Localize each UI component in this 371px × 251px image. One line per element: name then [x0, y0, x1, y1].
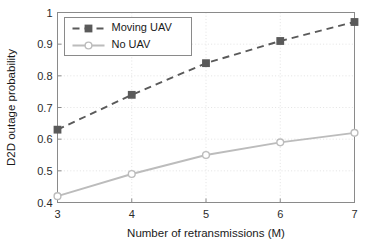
data-point-marker	[128, 171, 135, 178]
y-tick-label: 1	[46, 7, 52, 19]
y-axis-title: D2D outage probability	[5, 49, 17, 166]
data-point-marker	[351, 19, 357, 25]
data-point-marker	[54, 193, 61, 200]
legend: Moving UAVNo UAV	[65, 18, 192, 56]
y-tick-label: 0.4	[37, 197, 52, 209]
data-point-marker	[277, 38, 283, 44]
y-tick-label: 0.7	[37, 102, 52, 114]
x-tick-label: 3	[54, 208, 60, 220]
data-point-marker	[277, 139, 284, 146]
y-tick-label: 0.5	[37, 165, 52, 177]
data-point-marker	[351, 129, 358, 136]
chart-figure: 0.40.50.60.70.80.9134567 Number of retra…	[0, 0, 371, 251]
legend-label: Moving UAV	[112, 21, 173, 33]
y-tick-label: 0.6	[37, 133, 52, 145]
x-tick-label: 7	[351, 208, 357, 220]
series-line	[58, 133, 355, 196]
y-tick-label: 0.9	[37, 38, 52, 50]
legend-marker-sample	[85, 25, 91, 31]
x-tick-label: 5	[203, 208, 209, 220]
data-point-marker	[203, 60, 209, 66]
data-point-marker	[129, 92, 135, 98]
legend-label: No UAV	[112, 38, 152, 50]
y-tick-label: 0.8	[37, 70, 52, 82]
x-axis-title: Number of retransmissions (M)	[127, 227, 285, 239]
data-point-marker	[54, 126, 60, 132]
legend-marker-sample	[85, 42, 92, 49]
data-point-marker	[203, 152, 210, 159]
plot-area: 0.40.50.60.70.80.9134567 Number of retra…	[0, 0, 371, 251]
x-tick-label: 4	[129, 208, 135, 220]
x-tick-label: 6	[277, 208, 283, 220]
